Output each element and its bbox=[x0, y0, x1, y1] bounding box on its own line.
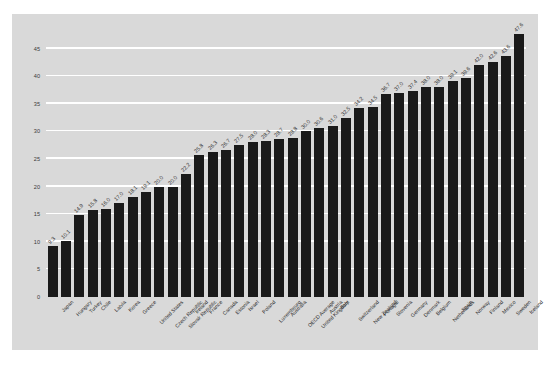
bar[interactable]: 18.1 bbox=[128, 197, 138, 297]
bar-value-label: 34.2 bbox=[353, 96, 365, 108]
bars-group: 9.310.114.915.816.017.018.119.120.020.02… bbox=[46, 32, 526, 297]
bar[interactable]: 30.6 bbox=[314, 128, 324, 297]
bar-value-label: 17.0 bbox=[113, 190, 125, 202]
bar[interactable]: 39.1 bbox=[448, 81, 458, 297]
bar-value-label: 10.1 bbox=[60, 229, 72, 241]
bar-slot: 36.7 bbox=[379, 32, 392, 297]
bar[interactable]: 14.9 bbox=[74, 215, 84, 297]
bar[interactable]: 38.0 bbox=[421, 87, 431, 297]
bar[interactable]: 9.3 bbox=[48, 246, 58, 297]
bar[interactable]: 22.2 bbox=[181, 174, 191, 297]
bar-value-label: 19.1 bbox=[140, 179, 152, 191]
bar[interactable]: 16.0 bbox=[101, 209, 111, 297]
bar-value-label: 38.0 bbox=[420, 75, 432, 87]
bar-slot: 34.2 bbox=[353, 32, 366, 297]
bar[interactable]: 15.8 bbox=[88, 210, 98, 297]
bar-slot: 20.0 bbox=[166, 32, 179, 297]
bar-value-label: 38.0 bbox=[433, 75, 445, 87]
y-axis-tick-label: 20 bbox=[34, 184, 40, 190]
x-axis-label: Poland bbox=[261, 299, 277, 315]
bar-value-label: 37.0 bbox=[393, 80, 405, 92]
bar-slot: 38.0 bbox=[419, 32, 432, 297]
bar-slot: 28.0 bbox=[246, 32, 259, 297]
bar-value-label: 20.0 bbox=[153, 174, 165, 186]
bar[interactable]: 17.0 bbox=[114, 203, 124, 297]
bar-slot: 18.1 bbox=[126, 32, 139, 297]
x-axis-label: Japan bbox=[60, 299, 74, 313]
bar-value-label: 30.0 bbox=[300, 119, 312, 131]
bar[interactable]: 43.6 bbox=[501, 56, 511, 297]
bar-slot: 10.1 bbox=[59, 32, 72, 297]
bar[interactable]: 32.5 bbox=[341, 118, 351, 297]
bar-slot: 42.0 bbox=[473, 32, 486, 297]
bar[interactable]: 37.4 bbox=[408, 91, 418, 297]
bar[interactable]: 34.2 bbox=[354, 108, 364, 297]
bar-value-label: 20.0 bbox=[166, 174, 178, 186]
bar-slot: 14.9 bbox=[73, 32, 86, 297]
bar[interactable]: 38.0 bbox=[434, 87, 444, 297]
bar-value-label: 43.6 bbox=[500, 44, 512, 56]
bar[interactable]: 47.6 bbox=[514, 34, 524, 297]
bar-slot: 27.5 bbox=[233, 32, 246, 297]
bar[interactable]: 26.7 bbox=[221, 150, 231, 297]
bar[interactable]: 42.6 bbox=[488, 62, 498, 297]
x-axis-label: Greece bbox=[141, 299, 157, 315]
bar-value-label: 18.1 bbox=[126, 184, 138, 196]
bar[interactable]: 34.5 bbox=[368, 107, 378, 297]
bar[interactable]: 25.8 bbox=[194, 155, 204, 297]
bar-value-label: 26.7 bbox=[220, 137, 232, 149]
bar-slot: 25.8 bbox=[193, 32, 206, 297]
x-axis-label: Korea bbox=[127, 299, 141, 313]
bar[interactable]: 20.0 bbox=[154, 187, 164, 297]
bar-slot: 26.7 bbox=[219, 32, 232, 297]
bar[interactable]: 37.0 bbox=[394, 93, 404, 297]
bar-value-label: 37.4 bbox=[406, 78, 418, 90]
bar-slot: 37.4 bbox=[406, 32, 419, 297]
bar-value-label: 28.8 bbox=[286, 125, 298, 137]
bar[interactable]: 28.3 bbox=[261, 141, 271, 297]
bar-slot: 9.3 bbox=[46, 32, 59, 297]
bar-slot: 30.6 bbox=[313, 32, 326, 297]
bar-slot: 15.8 bbox=[86, 32, 99, 297]
bar-slot: 28.7 bbox=[273, 32, 286, 297]
bar[interactable]: 28.0 bbox=[248, 142, 258, 297]
bar-value-label: 36.7 bbox=[380, 82, 392, 94]
bar-value-label: 28.7 bbox=[273, 126, 285, 138]
bar[interactable]: 10.1 bbox=[61, 241, 71, 297]
bar[interactable]: 39.6 bbox=[461, 78, 471, 297]
bar[interactable]: 27.5 bbox=[234, 145, 244, 297]
y-axis-tick-label: 45 bbox=[34, 46, 40, 52]
bar-slot: 37.0 bbox=[393, 32, 406, 297]
y-axis-tick-label: 0 bbox=[37, 294, 40, 300]
y-axis-tick-label: 5 bbox=[37, 266, 40, 272]
bar-slot: 30.0 bbox=[299, 32, 312, 297]
bar-slot: 16.0 bbox=[99, 32, 112, 297]
bar[interactable]: 42.0 bbox=[474, 65, 484, 297]
bar-value-label: 30.6 bbox=[313, 115, 325, 127]
bar-value-label: 39.6 bbox=[460, 66, 472, 78]
bar-slot: 43.6 bbox=[499, 32, 512, 297]
bar[interactable]: 20.0 bbox=[168, 187, 178, 297]
bar-value-label: 28.3 bbox=[260, 128, 272, 140]
bar[interactable]: 26.3 bbox=[208, 152, 218, 297]
bar-slot: 39.6 bbox=[459, 32, 472, 297]
bar[interactable]: 31.0 bbox=[328, 126, 338, 297]
bar[interactable]: 36.7 bbox=[381, 94, 391, 297]
y-axis-tick-label: 25 bbox=[34, 156, 40, 162]
bar[interactable]: 28.7 bbox=[274, 139, 284, 297]
bar-value-label: 22.2 bbox=[180, 162, 192, 174]
bar-chart: 051015202530354045 9.310.114.915.816.017… bbox=[0, 0, 550, 368]
x-axis-category-labels: JapanHungaryTurkeyChileLatviaKoreaGreece… bbox=[46, 299, 526, 359]
bar-value-label: 47.6 bbox=[513, 22, 525, 34]
bar-slot: 20.0 bbox=[153, 32, 166, 297]
bar-value-label: 28.0 bbox=[246, 130, 258, 142]
bar[interactable]: 19.1 bbox=[141, 192, 151, 297]
bar-slot: 17.0 bbox=[113, 32, 126, 297]
bar-value-label: 42.6 bbox=[486, 49, 498, 61]
chart-plot-panel: 051015202530354045 9.310.114.915.816.017… bbox=[12, 14, 538, 350]
bar-value-label: 39.1 bbox=[446, 68, 458, 80]
bar[interactable]: 30.0 bbox=[301, 131, 311, 297]
bar[interactable]: 28.8 bbox=[288, 138, 298, 297]
bar-value-label: 32.5 bbox=[340, 105, 352, 117]
bar-slot: 38.0 bbox=[433, 32, 446, 297]
